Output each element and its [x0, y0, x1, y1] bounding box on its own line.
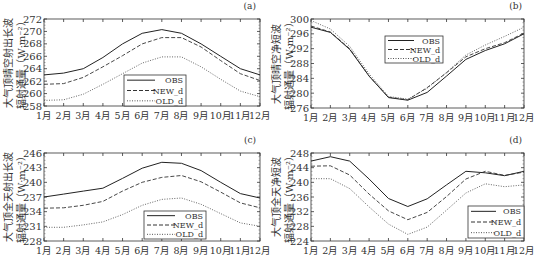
- legend-label: OLD_d: [413, 55, 440, 64]
- x-tick-label: 8月: [439, 112, 455, 123]
- x-tick-label: 9月: [193, 110, 209, 121]
- x-tick-label: 3月: [342, 245, 358, 256]
- x-tick-label: 8月: [173, 245, 189, 256]
- x-tick-label: 2月: [56, 245, 72, 256]
- legend-label: NEW_d: [491, 218, 521, 227]
- x-tick-label: 7月: [419, 245, 435, 256]
- x-tick-label: 4月: [361, 112, 377, 123]
- legend-label: OBS: [165, 76, 183, 85]
- y-axis-label-units: 辐射通量（W·m⁻²）: [15, 151, 27, 243]
- panel-label: (d): [509, 135, 522, 145]
- x-tick-label: 12月: [249, 110, 271, 121]
- x-tick-label: 9月: [193, 245, 209, 256]
- y-axis-label: 大气顶全天净短波: [270, 157, 282, 237]
- x-tick-label: 1月: [303, 245, 319, 256]
- panel-label: (c): [244, 135, 256, 145]
- x-tick-label: 5月: [115, 245, 131, 256]
- x-tick-label: 7月: [154, 110, 170, 121]
- y-axis-label-units: 辐射通量（W·m⁻²）: [283, 151, 295, 243]
- y-axis-label: 大气顶全天射出长波: [2, 152, 14, 242]
- x-tick-label: 1月: [36, 245, 52, 256]
- x-tick-label: 4月: [95, 245, 111, 256]
- x-tick-label: 8月: [439, 245, 455, 256]
- x-tick-label: 6月: [134, 245, 150, 256]
- legend-label: OBS: [422, 37, 440, 46]
- x-tick-label: 4月: [95, 110, 111, 121]
- series-line-obs: [44, 162, 260, 198]
- x-tick-label: 5月: [380, 112, 396, 123]
- series-line-obs: [311, 157, 524, 207]
- y-axis-label-units: 辐射通量（W·m⁻²）: [15, 16, 27, 108]
- panel-label: (a): [244, 1, 256, 11]
- legend-label: OLD_d: [494, 229, 521, 238]
- x-tick-label: 7月: [154, 245, 170, 256]
- x-tick-label: 7月: [419, 112, 435, 123]
- x-tick-label: 5月: [380, 245, 396, 256]
- x-tick-label: 1月: [303, 112, 319, 123]
- legend-label: OLD_d: [176, 230, 203, 239]
- x-tick-label: 6月: [400, 245, 416, 256]
- chart-panel-c: 2282312342372402432461月2月3月4月5月6月7月8月9月1…: [2, 135, 271, 256]
- legend-label: OBS: [185, 212, 203, 221]
- x-tick-label: 3月: [342, 112, 358, 123]
- legend: OBSNEW_dOLD_d: [385, 36, 443, 64]
- x-tick-label: 9月: [458, 112, 474, 123]
- x-tick-label: 9月: [458, 245, 474, 256]
- chart-panel-a: 2582602622642662682702721月2月3月4月5月6月7月8月…: [2, 1, 271, 121]
- x-tick-label: 2月: [56, 110, 72, 121]
- legend-label: OBS: [503, 207, 521, 216]
- x-tick-label: 1月: [36, 110, 52, 121]
- legend: OBSNEW_dOLD_d: [468, 206, 524, 238]
- x-tick-label: 5月: [115, 110, 131, 121]
- chart-panel-d: 2242282322362402442481月2月3月4月5月6月7月8月9月1…: [270, 135, 535, 256]
- legend-label: NEW_d: [173, 221, 203, 230]
- panel-label: (b): [509, 1, 522, 11]
- x-tick-label: 6月: [400, 112, 416, 123]
- x-tick-label: 12月: [513, 112, 535, 123]
- figure: 2582602622642662682702721月2月3月4月5月6月7月8月…: [0, 0, 538, 267]
- legend-label: OLD_d: [156, 97, 183, 106]
- x-tick-label: 4月: [361, 245, 377, 256]
- y-axis-label-units: 辐射通量（W·m⁻²）: [283, 17, 295, 109]
- legend: OBSNEW_dOLD_d: [124, 75, 186, 106]
- x-tick-label: 3月: [75, 110, 91, 121]
- y-axis-label: 大气顶晴空射出长波: [2, 18, 14, 108]
- legend-label: NEW_d: [153, 87, 183, 96]
- legend-label: NEW_d: [410, 46, 440, 55]
- x-tick-label: 12月: [513, 245, 535, 256]
- y-axis-label: 大气顶晴空净短波: [270, 24, 282, 104]
- legend: OBSNEW_dOLD_d: [144, 211, 206, 239]
- x-tick-label: 3月: [75, 245, 91, 256]
- x-tick-label: 2月: [322, 112, 338, 123]
- x-tick-label: 8月: [173, 110, 189, 121]
- chart-panel-b: 2762802842882922963001月2月3月4月5月6月7月8月9月1…: [270, 1, 535, 123]
- x-tick-label: 2月: [322, 245, 338, 256]
- x-tick-label: 6月: [134, 110, 150, 121]
- series-line-obs: [44, 30, 260, 75]
- plot-frame: [311, 19, 524, 108]
- x-tick-label: 12月: [249, 245, 271, 256]
